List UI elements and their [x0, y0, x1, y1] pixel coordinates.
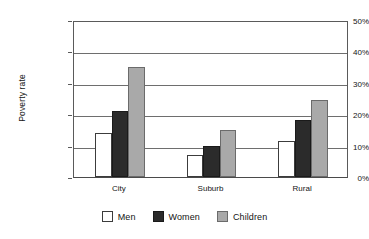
y-axis-tick-mark — [68, 21, 72, 22]
legend-item-children[interactable]: Children — [217, 211, 267, 222]
bar-children-rural — [311, 100, 328, 177]
y-axis-tick-mark — [68, 178, 72, 179]
y-axis-tick-mark — [68, 52, 72, 53]
legend-label-women: Women — [169, 212, 200, 222]
x-axis-tick-label: Rural — [293, 184, 312, 193]
bar-women-city — [112, 111, 129, 177]
chart-legend: Men Women Children — [0, 211, 369, 222]
legend-label-men: Men — [118, 212, 136, 222]
y-axis-tick-mark — [68, 147, 72, 148]
legend-label-children: Children — [233, 212, 267, 222]
bar-women-rural — [295, 120, 312, 177]
bar-men-city — [95, 133, 112, 177]
y-axis-tick-mark — [68, 84, 72, 85]
bar-men-suburb — [187, 155, 204, 177]
y-axis-tick-mark — [68, 115, 72, 116]
bar-children-city — [128, 67, 145, 177]
legend-swatch-men-icon — [102, 211, 113, 222]
plot-area — [73, 21, 348, 178]
x-axis-tick-label: City — [112, 184, 126, 193]
x-axis-tick-label: Suburb — [198, 184, 224, 193]
legend-swatch-women-icon — [153, 211, 164, 222]
bar-men-rural — [278, 141, 295, 177]
y-axis-title: Poverty rate — [17, 43, 27, 153]
bar-children-suburb — [220, 130, 237, 177]
legend-item-men[interactable]: Men — [102, 211, 136, 222]
gridline — [74, 53, 347, 54]
legend-item-women[interactable]: Women — [153, 211, 200, 222]
legend-swatch-children-icon — [217, 211, 228, 222]
bar-women-suburb — [203, 146, 220, 177]
poverty-rate-bar-chart: Poverty rate 0%10%20%30%40%50% CitySubur… — [0, 0, 369, 239]
gridline — [74, 85, 347, 86]
